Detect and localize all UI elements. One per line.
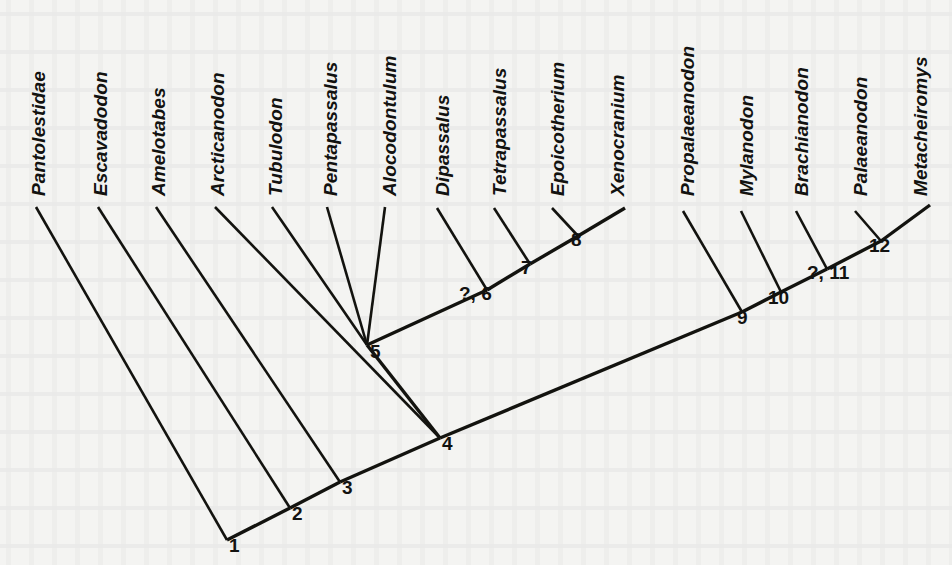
- backbone-segment-8-xenocranium: [578, 208, 625, 236]
- terminal-branch-pantolestidae: [36, 207, 227, 540]
- taxon-label-epoicotherium: Epoicotherium: [547, 62, 569, 196]
- taxon-label-alocodontulum: Alocodontulum: [379, 55, 401, 196]
- node-label-5: 5: [370, 341, 381, 363]
- taxon-label-amelotabes: Amelotabes: [148, 87, 170, 196]
- node-label-3: 3: [342, 477, 353, 499]
- taxon-label-arcticanodon: Arcticanodon: [207, 72, 229, 196]
- terminal-branch-brachianodon: [796, 211, 827, 269]
- taxon-label-mylanodon: Mylanodon: [736, 95, 758, 196]
- node-label-1: 1: [229, 535, 240, 557]
- node-label-12: 12: [869, 235, 890, 257]
- taxon-label-brachianodon: Brachianodon: [791, 67, 813, 196]
- taxon-label-pantolestidae: Pantolestidae: [28, 71, 50, 196]
- taxon-label-metacheiromys: Metacheiromys: [910, 56, 932, 196]
- terminal-branch-dipassalus: [437, 208, 487, 290]
- taxon-label-palaeanodon: Palaeanodon: [850, 77, 872, 196]
- node-label-6: ?, 6: [459, 283, 492, 305]
- terminal-branch-mylanodon: [741, 211, 781, 292]
- taxon-label-tetrapassalus: Tetrapassalus: [489, 68, 511, 196]
- taxon-label-dipassalus: Dipassalus: [432, 95, 454, 196]
- terminal-branch-tetrapassalus: [494, 208, 530, 264]
- cladogram-figure: PantolestidaeEscavadodonAmelotabesArctic…: [0, 0, 952, 565]
- taxon-label-tubulodon: Tubulodon: [265, 97, 287, 196]
- terminal-branch-propalaeanodon: [683, 211, 742, 312]
- terminal-branch-pentapassalus: [327, 207, 367, 345]
- taxon-label-pentapassalus: Pentapassalus: [320, 62, 342, 196]
- terminal-branch-alocodontulum: [367, 207, 385, 345]
- taxon-label-propalaeanodon: Propalaeanodon: [677, 46, 699, 196]
- terminal-branch-tubulodon: [272, 207, 367, 345]
- taxon-label-escavadodon: Escavadodon: [90, 71, 112, 196]
- backbone-segment-3-4: [340, 438, 440, 482]
- backbone-segment-4-9: [440, 312, 742, 438]
- node-label-9: 9: [737, 307, 748, 329]
- taxon-label-xenocranium: Xenocranium: [607, 75, 629, 196]
- node-label-2: 2: [292, 503, 303, 525]
- terminal-branch-arcticanodon: [215, 207, 440, 438]
- node-label-8: 8: [571, 229, 582, 251]
- terminal-branch-escavadodon: [98, 207, 290, 508]
- node-label-4: 4: [442, 433, 453, 455]
- node-label-10: 10: [768, 287, 789, 309]
- node-label-7: 7: [521, 257, 532, 279]
- node-label-11: ?, 11: [807, 262, 849, 284]
